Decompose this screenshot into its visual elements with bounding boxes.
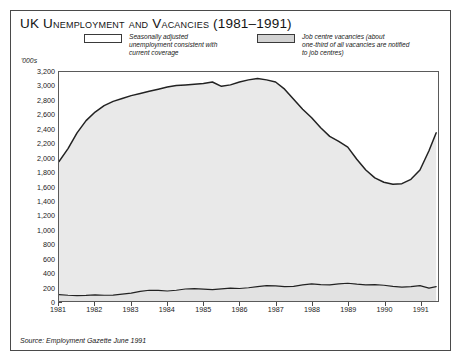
y-axis-units-label: '000s	[21, 57, 37, 64]
y-axis-tick-label: 2,400	[11, 124, 55, 133]
x-axis-tick-label: 1989	[340, 305, 356, 314]
y-axis-tick-label: 2,200	[11, 139, 55, 148]
chart-figure: UK Unemployment and Vacancies (1981–1991…	[10, 10, 451, 351]
y-axis-tick-label: 3,200	[11, 67, 55, 76]
legend-item-unemployment: Seasonally adjusted unemployment consist…	[84, 33, 217, 58]
y-axis-tick-label: 1,800	[11, 168, 55, 177]
legend-swatch-vacancies	[257, 34, 295, 43]
legend-label-unemployment: Seasonally adjusted unemployment consist…	[129, 33, 217, 58]
x-axis-tick-label: 1983	[123, 305, 139, 314]
y-axis-tick-label: 2,800	[11, 95, 55, 104]
x-axis-tick-label: 1987	[268, 305, 284, 314]
y-axis-tick-label: 1,600	[11, 182, 55, 191]
legend-item-vacancies: Job centre vacancies (about one-third of…	[257, 33, 409, 58]
x-axis-tick-label: 1990	[377, 305, 393, 314]
x-axis-tick-label: 1982	[86, 305, 102, 314]
chart-title: UK Unemployment and Vacancies (1981–1991…	[20, 16, 292, 31]
plot-svg	[59, 72, 438, 301]
y-axis-tick-label: 3,000	[11, 81, 55, 90]
legend-swatch-unemployment	[84, 34, 122, 43]
x-axis-tick-label: 1981	[50, 305, 66, 314]
y-axis-labels: 3,2003,0002,8002,6002,4002,2002,0001,800…	[11, 71, 55, 302]
area-fill-unemployment	[59, 78, 436, 295]
x-axis-tick-label: 1985	[195, 305, 211, 314]
source-note: Source: Employment Gazette June 1991	[20, 337, 146, 344]
x-axis-tick-label: 1986	[231, 305, 247, 314]
plot-area	[58, 71, 439, 302]
x-axis-labels: 1981198219831984198519861987198819891990…	[58, 305, 439, 319]
y-axis-tick-label: 2,000	[11, 153, 55, 162]
legend-label-vacancies: Job centre vacancies (about one-third of…	[302, 33, 409, 58]
x-axis-tick-label: 1984	[159, 305, 175, 314]
y-axis-tick-label: 1,200	[11, 211, 55, 220]
y-axis-tick-label: 2,600	[11, 110, 55, 119]
y-axis-tick-label: 0	[11, 298, 55, 307]
y-axis-tick-label: 200	[11, 283, 55, 292]
x-axis-tick-label: 1988	[304, 305, 320, 314]
y-axis-tick-label: 800	[11, 240, 55, 249]
y-axis-tick-label: 600	[11, 254, 55, 263]
y-axis-tick-label: 400	[11, 269, 55, 278]
y-axis-tick-label: 1,400	[11, 196, 55, 205]
y-axis-tick-label: 1,000	[11, 225, 55, 234]
x-axis-tick-label: 1991	[413, 305, 429, 314]
